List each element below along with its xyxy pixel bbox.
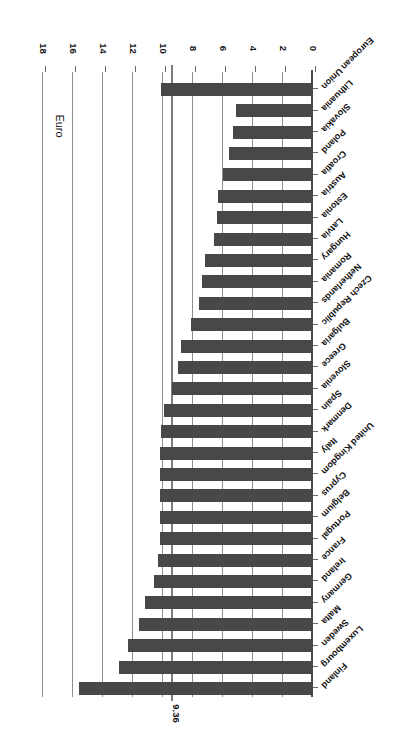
bar — [162, 83, 314, 96]
bar — [162, 425, 314, 438]
category-axis-tick — [313, 302, 318, 303]
value-axis-tick-label: 18 — [38, 36, 49, 62]
value-axis-tick-label: 4 — [248, 36, 259, 62]
value-axis-tick — [105, 66, 106, 72]
bar — [199, 297, 313, 310]
reference-line-label: 9.36 — [171, 704, 182, 723]
category-axis-tick — [313, 409, 318, 410]
bar — [129, 639, 314, 652]
value-axis-tick-label: 2 — [278, 36, 289, 62]
value-axis-tick-label: 8 — [188, 36, 199, 62]
bar — [223, 168, 313, 181]
bar — [165, 404, 314, 417]
value-axis-tick-label: 14 — [98, 36, 109, 62]
bar — [160, 532, 313, 545]
category-axis-tick — [313, 495, 318, 496]
value-axis-tick-label: 0 — [308, 36, 319, 62]
category-axis-tick — [313, 666, 318, 667]
category-axis-tick — [313, 452, 318, 453]
bar — [79, 682, 313, 695]
category-axis-tick — [313, 538, 318, 539]
value-axis-tick — [45, 66, 46, 72]
gridline — [72, 72, 73, 697]
bar — [219, 190, 314, 203]
category-axis-tick — [313, 174, 318, 175]
category-axis-tick — [313, 281, 318, 282]
category-axis-tick — [313, 88, 318, 89]
category-axis-tick — [313, 110, 318, 111]
category-axis-tick — [313, 581, 318, 582]
chart-canvas: 024681012141618 Euro 9.36 FinlandLuxembo… — [0, 0, 394, 735]
value-axis-tick — [255, 66, 256, 72]
chart-figure: 024681012141618 Euro 9.36 FinlandLuxembo… — [0, 0, 394, 735]
category-axis-tick — [313, 367, 318, 368]
bar — [160, 511, 313, 524]
bar — [145, 596, 313, 609]
value-axis-title: Euro — [54, 114, 66, 137]
bar — [120, 661, 314, 674]
gridline — [102, 72, 103, 697]
value-axis-tick — [225, 66, 226, 72]
value-axis-tick-label: 16 — [68, 36, 79, 62]
category-axis-tick — [313, 623, 318, 624]
bar — [160, 447, 313, 460]
bar — [214, 233, 313, 246]
gridline — [42, 72, 43, 697]
value-axis-tick — [195, 66, 196, 72]
value-axis-tick-label: 10 — [158, 36, 169, 62]
bar — [181, 340, 313, 353]
category-axis-tick — [313, 388, 318, 389]
category-axis-tick — [313, 688, 318, 689]
bar — [234, 126, 314, 139]
value-axis-tick-label: 6 — [218, 36, 229, 62]
category-axis-tick — [313, 217, 318, 218]
category-axis-tick — [313, 559, 318, 560]
category-axis-tick — [313, 431, 318, 432]
category-axis-tick — [313, 238, 318, 239]
value-axis-tick — [315, 66, 316, 72]
category-axis-tick — [313, 516, 318, 517]
bar — [229, 147, 313, 160]
bar — [172, 382, 313, 395]
category-axis-tick — [313, 602, 318, 603]
value-axis-tick — [135, 66, 136, 72]
value-axis-tick — [165, 66, 166, 72]
category-axis-tick — [313, 324, 318, 325]
category-axis-tick — [313, 131, 318, 132]
bar — [202, 275, 313, 288]
gridline — [132, 72, 133, 697]
category-axis-tick — [313, 645, 318, 646]
value-axis-tick — [285, 66, 286, 72]
bar — [192, 318, 314, 331]
bar — [139, 618, 313, 631]
bar — [178, 361, 313, 374]
bar — [205, 254, 313, 267]
category-axis-tick — [313, 260, 318, 261]
bar — [159, 554, 314, 567]
category-axis-tick — [313, 345, 318, 346]
bar — [217, 211, 313, 224]
value-axis-tick-label: 12 — [128, 36, 139, 62]
bar — [154, 575, 313, 588]
value-axis-tick — [75, 66, 76, 72]
bar — [160, 489, 313, 502]
category-axis-tick — [313, 474, 318, 475]
bar — [160, 468, 313, 481]
category-axis-tick — [313, 153, 318, 154]
bar — [237, 104, 314, 117]
category-axis-tick — [313, 195, 318, 196]
